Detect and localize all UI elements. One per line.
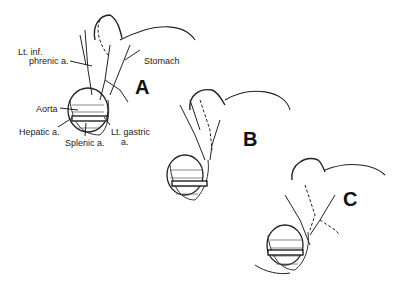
label-splenic: Splenic a. — [65, 138, 105, 148]
panel-label-c: C — [343, 188, 357, 211]
panel-b-drawing — [167, 90, 290, 200]
label-stomach: Stomach — [144, 56, 180, 66]
label-lt-inf-phrenic-line2: phrenic a. — [29, 56, 69, 66]
label-aorta: Aorta — [36, 104, 58, 114]
panel-label-a: A — [135, 76, 149, 99]
label-lt-gastric-line2: a. — [121, 137, 129, 147]
panel-label-b: B — [243, 128, 257, 151]
anatomical-diagram — [0, 0, 404, 285]
label-hepatic: Hepatic a. — [19, 127, 60, 137]
panel-c-drawing — [255, 159, 385, 274]
panel-a-drawing — [58, 15, 195, 136]
label-lt-gastric-line1: Lt. gastric — [111, 127, 150, 137]
